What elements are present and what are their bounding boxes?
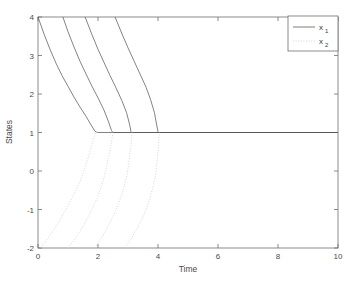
x-tick-label: 2 (96, 252, 101, 261)
x-tick-label: 6 (216, 252, 221, 261)
legend-label-x2-base: x (319, 37, 323, 46)
y-tick-label: -2 (27, 244, 35, 253)
y-tick-label: 1 (30, 129, 35, 138)
y-tick-label: 0 (30, 167, 35, 176)
chart-canvas: 0246810-2-101234 Time States x 1 x 2 (0, 0, 355, 284)
y-tick-label: -1 (27, 206, 35, 215)
x-tick-label: 10 (334, 252, 343, 261)
legend-label-x1-base: x (319, 23, 323, 32)
y-tick-label: 2 (30, 90, 35, 99)
legend[interactable]: x 1 x 2 (288, 16, 338, 51)
x-tick-label: 8 (276, 252, 281, 261)
figure-container: 0246810-2-101234 Time States x 1 x 2 (0, 0, 355, 284)
x-tick-label: 4 (156, 252, 161, 261)
y-tick-label: 3 (30, 52, 35, 61)
legend-box (288, 16, 338, 51)
x-tick-label: 0 (36, 252, 41, 261)
y-tick-label: 4 (30, 13, 35, 22)
x-axis-title: Time (179, 264, 198, 274)
y-axis-title: States (4, 120, 14, 144)
